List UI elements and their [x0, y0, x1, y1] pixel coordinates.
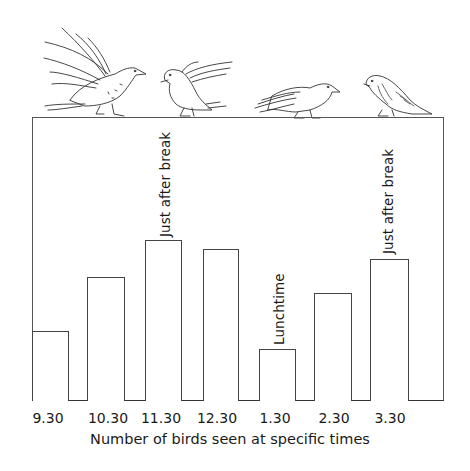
birds-illustration — [0, 0, 470, 120]
tick-label-9-30: 9.30 — [18, 410, 78, 426]
bird-2-icon — [161, 62, 232, 116]
tick-label-11-30: 11.30 — [131, 410, 191, 426]
bar-9-30 — [32, 331, 69, 401]
bird-1-icon — [44, 28, 146, 116]
x-axis-title: Number of birds seen at specific times — [0, 431, 470, 447]
tick-label-10-30: 10.30 — [78, 410, 138, 426]
tick-label-1-30: 1.30 — [245, 410, 305, 426]
tick-label-12-30: 12.30 — [187, 410, 247, 426]
tick-label-3-30: 3.30 — [360, 410, 420, 426]
annotation-just-after-break-2: Just after break — [380, 149, 396, 254]
annotation-lunchtime: Lunchtime — [271, 273, 287, 345]
bar-11-30 — [145, 240, 182, 401]
annotation-just-after-break-1: Just after break — [157, 132, 173, 237]
bird-4-icon — [364, 75, 432, 116]
bar-3-30 — [370, 259, 409, 401]
tick-label-2-30: 2.30 — [304, 410, 364, 426]
bar-10-30 — [87, 277, 125, 401]
bird-3-icon — [255, 84, 340, 118]
bar-2-30 — [314, 293, 352, 401]
bar-12-30 — [203, 249, 239, 401]
bar-1-30 — [259, 349, 296, 401]
